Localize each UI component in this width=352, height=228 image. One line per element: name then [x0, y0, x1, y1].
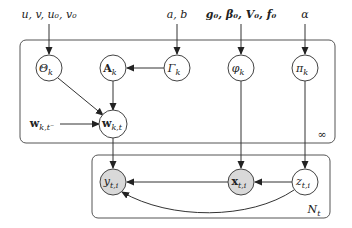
- hyper-pi-label: α: [301, 8, 309, 21]
- hyper-theta-label: u, v, u₀, v₀: [21, 8, 77, 21]
- plate-outer-label: ∞: [317, 128, 326, 141]
- graphical-model-diagram: u, v, u₀, v₀ a, b g₀, β₀, V₀, f₀ α Θk Ak…: [0, 0, 352, 228]
- plate-inner-label: Nt: [307, 203, 322, 218]
- hyper-gamma-label: a, b: [167, 8, 188, 21]
- hyper-phi-label: g₀, β₀, V₀, f₀: [206, 8, 277, 21]
- label-w-prev: wk,t⁻: [29, 117, 54, 132]
